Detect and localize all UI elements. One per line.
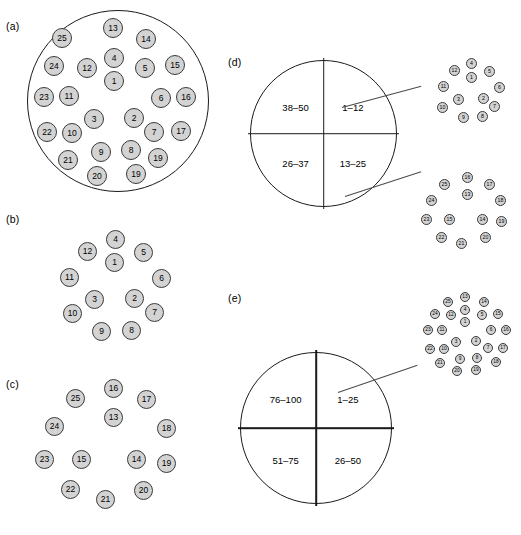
node-circle[interactable]: 15	[165, 55, 185, 75]
node-circle[interactable]: 9	[455, 354, 465, 364]
node-circle[interactable]: 23	[35, 450, 54, 469]
node-circle[interactable]: 4	[466, 58, 477, 69]
node-circle[interactable]: 20	[134, 481, 153, 500]
node-circle[interactable]: 8	[122, 321, 141, 340]
node-circle[interactable]: 2	[471, 336, 481, 346]
node-circle[interactable]: 10	[63, 304, 82, 323]
node-circle[interactable]: 9	[458, 112, 469, 123]
node-circle[interactable]: 9	[92, 322, 111, 341]
node-circle[interactable]: 20	[480, 232, 491, 243]
node-circle[interactable]: 8	[472, 353, 482, 363]
node-circle[interactable]: 2	[124, 108, 144, 128]
node-circle[interactable]: 10	[437, 102, 448, 113]
node-circle[interactable]: 7	[483, 343, 493, 353]
node-circle[interactable]: 24	[44, 56, 64, 76]
node-circle[interactable]: 3	[453, 94, 464, 105]
node-circle[interactable]: 25	[66, 389, 85, 408]
node-circle[interactable]: 20	[87, 166, 107, 186]
node-circle[interactable]: 5	[134, 243, 153, 262]
node-circle[interactable]: 1	[466, 72, 477, 83]
node-circle[interactable]: 11	[437, 325, 447, 335]
node-circle[interactable]: 16	[104, 379, 123, 398]
node-circle[interactable]: 22	[436, 232, 447, 243]
node-circle[interactable]: 6	[151, 88, 171, 108]
node-circle[interactable]: 12	[449, 65, 460, 76]
node-circle[interactable]: 3	[85, 290, 104, 309]
node-circle[interactable]: 1	[105, 253, 124, 272]
node-circle[interactable]: 3	[84, 109, 104, 129]
node-circle[interactable]: 25	[439, 179, 450, 190]
node-circle[interactable]: 16	[501, 325, 511, 335]
node-circle[interactable]: 11	[438, 81, 449, 92]
node-circle[interactable]: 23	[421, 214, 432, 225]
node-circle[interactable]: 4	[104, 48, 124, 68]
node-circle[interactable]: 4	[106, 230, 125, 249]
node-circle[interactable]: 7	[144, 122, 164, 142]
node-circle[interactable]: 9	[91, 142, 111, 162]
node-circle[interactable]: 5	[484, 66, 495, 77]
node-circle[interactable]: 24	[430, 309, 440, 319]
node-circle[interactable]: 11	[60, 268, 79, 287]
node-circle[interactable]: 17	[137, 390, 156, 409]
node-circle[interactable]: 7	[489, 101, 500, 112]
node-circle[interactable]: 23	[34, 87, 54, 107]
node-circle[interactable]: 19	[496, 216, 507, 227]
node-circle[interactable]: 6	[152, 269, 171, 288]
node-circle[interactable]: 13	[103, 18, 123, 38]
node-circle[interactable]: 20	[452, 366, 462, 376]
node-circle[interactable]: 12	[77, 58, 97, 78]
node-circle[interactable]: 2	[125, 289, 144, 308]
node-circle[interactable]: 19	[148, 148, 168, 168]
node-circle[interactable]: 18	[157, 419, 176, 438]
node-circle[interactable]: 14	[477, 214, 488, 225]
node-circle[interactable]: 10	[62, 123, 82, 143]
node-circle[interactable]: 25	[443, 297, 453, 307]
node-circle[interactable]: 19	[126, 164, 146, 184]
node-circle[interactable]: 19	[157, 454, 176, 473]
node-circle[interactable]: 14	[136, 29, 156, 49]
node-circle[interactable]: 14	[479, 297, 489, 307]
node-circle[interactable]: 17	[484, 179, 495, 190]
node-circle[interactable]: 22	[37, 122, 57, 142]
node-circle[interactable]: 22	[425, 344, 435, 354]
node-circle[interactable]: 12	[446, 310, 456, 320]
node-circle[interactable]: 22	[61, 480, 80, 499]
node-circle[interactable]: 19	[471, 365, 481, 375]
node-circle[interactable]: 24	[45, 417, 64, 436]
node-circle[interactable]: 10	[439, 344, 449, 354]
node-circle[interactable]: 16	[462, 172, 473, 183]
node-circle[interactable]: 4	[460, 305, 470, 315]
node-circle[interactable]: 8	[121, 140, 141, 160]
node-circle[interactable]: 3	[451, 337, 461, 347]
node-circle[interactable]: 18	[495, 195, 506, 206]
node-circle[interactable]: 17	[171, 121, 191, 141]
node-circle[interactable]: 15	[444, 214, 455, 225]
node-circle[interactable]: 17	[498, 343, 508, 353]
node-circle[interactable]: 11	[59, 86, 79, 106]
node-circle[interactable]: 13	[462, 189, 473, 200]
node-circle[interactable]: 21	[58, 150, 78, 170]
node-circle[interactable]: 21	[96, 490, 115, 509]
node-circle[interactable]: 2	[478, 93, 489, 104]
node-circle[interactable]: 23	[423, 325, 433, 335]
node-circle[interactable]: 21	[456, 238, 467, 249]
node-circle[interactable]: 8	[477, 111, 488, 122]
node-circle[interactable]: 5	[477, 310, 487, 320]
node-circle[interactable]: 13	[460, 292, 470, 302]
node-circle[interactable]: 15	[493, 309, 503, 319]
node-circle[interactable]: 6	[486, 325, 496, 335]
node-circle[interactable]: 21	[435, 358, 445, 368]
node-circle[interactable]: 24	[426, 195, 437, 206]
node-circle[interactable]: 12	[78, 242, 97, 261]
node-circle[interactable]: 1	[104, 71, 124, 91]
node-circle[interactable]: 1	[460, 317, 470, 327]
node-circle[interactable]: 15	[72, 450, 91, 469]
node-circle[interactable]: 16	[176, 87, 196, 107]
node-circle[interactable]: 14	[127, 450, 146, 469]
node-circle[interactable]: 6	[494, 82, 505, 93]
node-circle[interactable]: 18	[491, 357, 501, 367]
node-circle[interactable]: 7	[145, 303, 164, 322]
node-circle[interactable]: 5	[135, 58, 155, 78]
node-circle[interactable]: 25	[52, 28, 72, 48]
node-circle[interactable]: 13	[104, 408, 123, 427]
